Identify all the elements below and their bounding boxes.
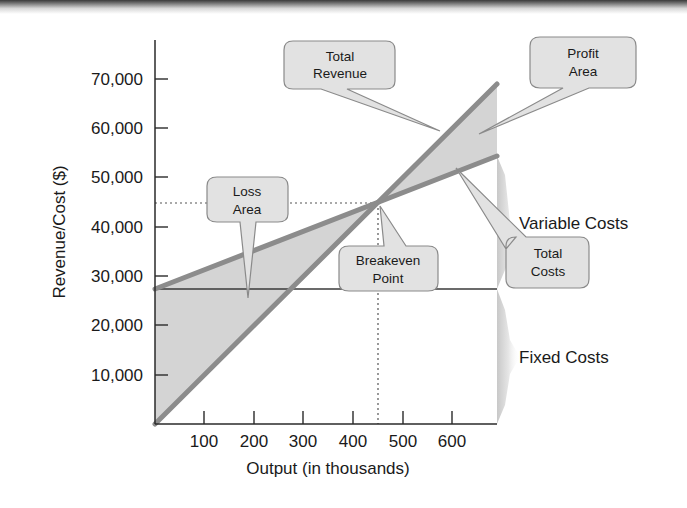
x-tick-label: 600 xyxy=(438,432,466,451)
x-tick-label: 300 xyxy=(289,432,317,451)
y-tick-labels: 70,000 60,000 50,000 40,000 30,000 20,00… xyxy=(91,70,143,385)
fixed-costs-label: Fixed Costs xyxy=(519,348,609,367)
y-tick-label: 10,000 xyxy=(91,366,143,385)
y-tick-label: 30,000 xyxy=(91,267,143,286)
x-tick-labels: 100 200 300 400 500 600 xyxy=(190,432,466,451)
y-tick-label: 60,000 xyxy=(91,119,143,138)
callout-text: Area xyxy=(569,64,598,79)
x-tick-label: 100 xyxy=(190,432,218,451)
y-tick-label: 70,000 xyxy=(91,70,143,89)
y-axis-title: Revenue/Cost ($) xyxy=(50,165,69,298)
callout-total-revenue: Total Revenue xyxy=(284,41,440,131)
breakeven-chart: 70,000 60,000 50,000 40,000 30,000 20,00… xyxy=(0,0,687,508)
y-tick-label: 20,000 xyxy=(91,316,143,335)
variable-costs-label: Variable Costs xyxy=(519,214,628,233)
y-tick-label: 40,000 xyxy=(91,218,143,237)
callout-text: Costs xyxy=(531,264,566,279)
callout-text: Point xyxy=(373,271,404,286)
callout-text: Profit xyxy=(567,46,599,61)
callout-text: Revenue xyxy=(313,66,367,81)
x-tick-label: 400 xyxy=(339,432,367,451)
y-tick-label: 50,000 xyxy=(91,168,143,187)
callout-text: Total xyxy=(326,49,355,64)
total-revenue-line xyxy=(155,84,497,424)
x-axis-title: Output (in thousands) xyxy=(246,459,409,478)
callout-text: Area xyxy=(233,202,262,217)
callout-profit-area: Profit Area xyxy=(479,37,636,134)
callout-text: Loss xyxy=(233,184,262,199)
x-ticks xyxy=(204,411,452,424)
total-costs-line xyxy=(155,156,497,289)
x-tick-label: 500 xyxy=(389,432,417,451)
fixed-costs-brace xyxy=(497,289,520,424)
x-tick-label: 200 xyxy=(240,432,268,451)
callout-text: Breakeven xyxy=(356,253,421,268)
callout-text: Total xyxy=(534,246,563,261)
